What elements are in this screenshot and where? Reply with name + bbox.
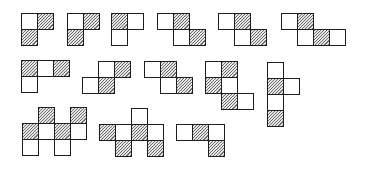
hatched-cell: [54, 123, 71, 140]
white-cell: [115, 124, 132, 141]
white-cell: [157, 13, 174, 30]
white-cell: [281, 13, 298, 30]
hatched-cell: [192, 124, 209, 141]
hatched-cell: [67, 29, 84, 46]
white-cell: [70, 123, 87, 140]
hatched-cell: [205, 77, 222, 94]
hatched-cell: [160, 61, 177, 78]
hatched-cell: [83, 13, 100, 30]
hatched-cell: [98, 77, 115, 94]
white-cell: [54, 139, 71, 156]
white-cell: [208, 124, 225, 141]
polyomino-figure: [0, 0, 365, 170]
white-cell: [297, 29, 314, 46]
hatched-cell: [234, 13, 251, 30]
hatched-cell: [173, 13, 190, 30]
hatched-cell: [37, 13, 54, 30]
white-cell: [127, 13, 144, 30]
white-cell: [237, 93, 254, 110]
white-cell: [67, 13, 84, 30]
hatched-cell: [147, 140, 164, 157]
white-cell: [22, 139, 39, 156]
white-cell: [221, 77, 238, 94]
hatched-cell: [176, 77, 193, 94]
hatched-cell: [221, 61, 238, 78]
white-cell: [111, 29, 128, 46]
hatched-cell: [70, 107, 87, 124]
white-cell: [21, 76, 38, 93]
white-cell: [176, 124, 193, 141]
hatched-cell: [38, 107, 55, 124]
white-cell: [205, 61, 222, 78]
white-cell: [234, 29, 251, 46]
white-cell: [131, 108, 148, 125]
white-cell: [21, 13, 38, 30]
hatched-cell: [267, 110, 284, 127]
hatched-cell: [131, 124, 148, 141]
hatched-cell: [189, 29, 206, 46]
white-cell: [38, 123, 55, 140]
white-cell: [37, 60, 54, 77]
white-cell: [98, 61, 115, 78]
hatched-cell: [221, 93, 238, 110]
white-cell: [160, 77, 177, 94]
hatched-cell: [297, 13, 314, 30]
white-cell: [173, 29, 190, 46]
hatched-cell: [114, 61, 131, 78]
white-cell: [283, 78, 300, 95]
hatched-cell: [53, 60, 70, 77]
white-cell: [267, 62, 284, 79]
hatched-cell: [22, 123, 39, 140]
white-cell: [218, 13, 235, 30]
hatched-cell: [267, 78, 284, 95]
hatched-cell: [21, 29, 38, 46]
hatched-cell: [250, 29, 267, 46]
hatched-cell: [115, 140, 132, 157]
hatched-cell: [99, 124, 116, 141]
hatched-cell: [208, 140, 225, 157]
white-cell: [267, 94, 284, 111]
hatched-cell: [313, 29, 330, 46]
hatched-cell: [21, 60, 38, 77]
white-cell: [329, 29, 346, 46]
white-cell: [147, 124, 164, 141]
hatched-cell: [111, 13, 128, 30]
white-cell: [144, 61, 161, 78]
white-cell: [82, 77, 99, 94]
